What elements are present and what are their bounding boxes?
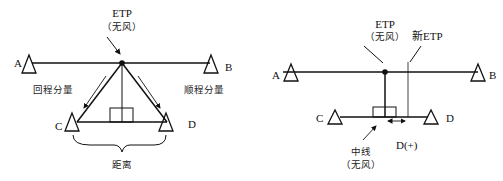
distance-brace [73, 135, 166, 152]
etp-pointer-arrow [107, 37, 120, 54]
outbound-arrow [138, 76, 160, 108]
point-a-right: A [272, 69, 280, 81]
left-diagram: ETP （无风） A B 回程分量 顺程分量 C D 距离 [14, 7, 232, 170]
point-a: A [14, 57, 22, 69]
new-etp-pointer-line [410, 46, 421, 62]
station-b-icon [204, 55, 218, 73]
new-etp-label: 新ETP [412, 29, 443, 42]
midline-label: 中线 [351, 146, 371, 157]
etp-pointer-line [364, 46, 383, 63]
etp-diagrams: ETP （无风） A B 回程分量 顺程分量 C D 距离 ETP （无风） 新… [0, 0, 503, 181]
midline-pointer-arrow [363, 126, 376, 140]
point-d: D [188, 118, 196, 130]
station-c-icon [65, 113, 79, 131]
station-a-icon [22, 55, 36, 73]
point-b-right: B [489, 69, 496, 81]
left-etp-label: ETP [112, 7, 132, 19]
point-c: C [55, 120, 62, 132]
right-etp-label: ETP [375, 18, 395, 30]
outbound-component-label: 顺程分量 [184, 84, 224, 95]
line-etp-d [122, 63, 167, 122]
distance-label: 距离 [112, 159, 132, 170]
line-etp-c [77, 63, 122, 122]
d-plus-label: D(+) [396, 139, 418, 152]
right-diagram: ETP （无风） 新ETP A B C D D(+) 中线 （无风） [272, 18, 496, 170]
station-c-icon-right [328, 110, 342, 124]
point-d-right: D [446, 112, 454, 124]
left-etp-sub: （无风） [102, 21, 142, 32]
midline-sub: （无风） [341, 159, 381, 170]
right-etp-sub: （无风） [365, 31, 405, 42]
return-component-label: 回程分量 [33, 84, 73, 95]
point-c-right: C [316, 112, 323, 124]
point-b: B [225, 61, 232, 73]
return-arrow [84, 76, 106, 108]
